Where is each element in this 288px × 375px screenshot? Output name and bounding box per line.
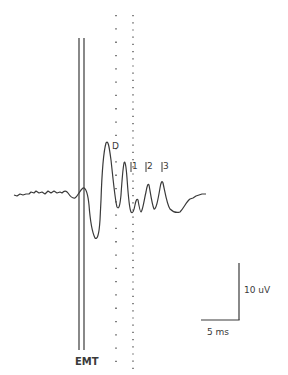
scale-bar-voltage-label: 10 uV — [244, 285, 270, 295]
waveform-trace — [14, 142, 206, 238]
peak-label-i1: 1 — [132, 161, 138, 171]
peak-label-d: D — [112, 141, 119, 151]
waveform-figure — [0, 0, 288, 375]
peak-label-i2: 2 — [147, 161, 153, 171]
stimulus-label-emt: EMT — [75, 356, 99, 367]
peak-label-i3: 3 — [163, 161, 169, 171]
scale-bar-time-label: 5 ms — [207, 327, 229, 337]
